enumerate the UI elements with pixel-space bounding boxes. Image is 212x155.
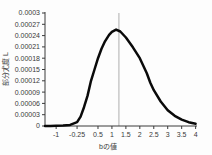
y-tick-label: 0.00009 xyxy=(15,89,40,96)
x-tick-label: 1 xyxy=(110,131,114,138)
y-tick-label: 0.00021 xyxy=(15,43,40,50)
y-tick-label: 0.00027 xyxy=(15,21,40,28)
y-tick-label: 0.00003 xyxy=(15,111,40,118)
x-axis-title: bの値 xyxy=(99,142,117,151)
plot-area: 0.00030.000270.000240.000210.000180.0001… xyxy=(15,9,198,138)
x-tick-label: 3 xyxy=(166,131,170,138)
partial-likelihood-curve xyxy=(45,30,196,126)
y-tick-label: 0.00012 xyxy=(15,77,40,84)
x-tick-label: 0.5 xyxy=(93,131,103,138)
x-tick-label: 4 xyxy=(194,131,198,138)
x-tick-label: -0.25 xyxy=(69,131,85,138)
y-axis-title: 部分尤度 L xyxy=(1,52,10,86)
y-tick-label: 0.00006 xyxy=(15,100,40,107)
y-tick-label: 0.0003 xyxy=(19,9,41,16)
y-tick-label: 0 xyxy=(36,122,40,129)
x-tick-label: 2.5 xyxy=(149,131,159,138)
y-tick-label: 0.00015 xyxy=(15,66,40,73)
y-tick-label: 0.00018 xyxy=(15,55,40,62)
x-tick-label: 3.5 xyxy=(177,131,187,138)
likelihood-chart: 0.00030.000270.000240.000210.000180.0001… xyxy=(0,0,212,155)
x-tick-label: 2 xyxy=(138,131,142,138)
x-tick-label: -1 xyxy=(53,131,59,138)
y-tick-label: 0.00024 xyxy=(15,32,40,39)
likelihood-chart-svg: 0.00030.000270.000240.000210.000180.0001… xyxy=(0,0,212,155)
x-tick-label: 1.5 xyxy=(121,131,131,138)
